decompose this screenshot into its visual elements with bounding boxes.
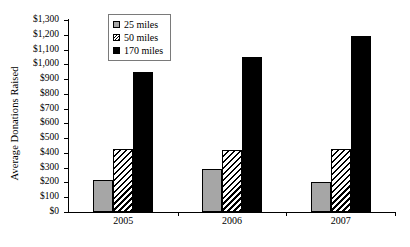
y-axis-tick-label: $600: [40, 119, 59, 129]
y-axis-tick-label: $900: [40, 74, 59, 84]
y-axis-tick-label: $100: [40, 192, 59, 202]
y-axis-title-text: Average Donations Raised: [9, 66, 20, 180]
y-axis-tick-label: $1,300: [33, 15, 59, 25]
y-axis-tick-mark: [64, 138, 68, 139]
legend-swatch-icon: [113, 47, 120, 54]
x-axis-tick-mark: [286, 212, 287, 216]
x-axis-tick-label: 2007: [311, 215, 371, 226]
legend-swatch-icon: [113, 34, 120, 41]
y-axis-tick-mark: [64, 153, 68, 154]
y-axis-tick-label: $0: [50, 207, 60, 217]
legend-swatch-icon: [113, 21, 120, 28]
x-axis-tick-mark: [395, 212, 396, 216]
y-axis-title: Average Donations Raised: [6, 0, 22, 247]
y-axis-tick-label: $1,200: [33, 30, 59, 40]
bar-group: [178, 20, 287, 212]
bar-group-bars: [178, 20, 287, 212]
legend-item-label: 50 miles: [124, 33, 158, 43]
bar: [351, 36, 371, 212]
bar-group: [286, 20, 395, 212]
legend-item-label: 170 miles: [124, 46, 163, 56]
y-axis-tick-mark: [64, 182, 68, 183]
bar: [222, 150, 242, 212]
legend-item-label: 25 miles: [124, 20, 158, 30]
x-axis-line: [68, 212, 395, 213]
bar-group-bars: [286, 20, 395, 212]
y-axis-tick-mark: [64, 197, 68, 198]
chart-legend: 25 miles50 miles170 miles: [108, 14, 171, 61]
y-axis-tick-label: $700: [40, 104, 59, 114]
y-axis-tick-label: $1,000: [33, 60, 59, 70]
y-axis-tick-label: $200: [40, 178, 59, 188]
y-axis-tick-label: $500: [40, 133, 59, 143]
y-axis-tick-mark: [64, 79, 68, 80]
bar: [133, 72, 153, 212]
bar: [202, 169, 222, 212]
y-axis-tick-mark: [64, 20, 68, 21]
y-axis-tick-mark: [64, 35, 68, 36]
bar: [242, 57, 262, 212]
bar: [113, 149, 133, 213]
y-axis-tick-labels: $0$100$200$300$400$500$600$700$800$900$1…: [22, 0, 64, 247]
y-axis-tick-label: $300: [40, 163, 59, 173]
y-axis-tick-label: $1,100: [33, 45, 59, 55]
bar-chart: Average Donations Raised $0$100$200$300$…: [0, 0, 410, 247]
y-axis-tick-mark: [64, 64, 68, 65]
y-axis-tick-mark: [64, 123, 68, 124]
y-axis-tick-label: $800: [40, 89, 59, 99]
y-axis-tick-mark: [64, 168, 68, 169]
x-axis-tick-label: 2005: [93, 215, 153, 226]
bar: [331, 149, 351, 213]
legend-item: 50 miles: [113, 31, 163, 44]
y-axis-tick-mark: [64, 94, 68, 95]
bar: [311, 182, 331, 212]
y-axis-tick-mark: [64, 50, 68, 51]
y-axis-tick-label: $400: [40, 148, 59, 158]
x-axis-tick-mark: [178, 212, 179, 216]
legend-item: 170 miles: [113, 44, 163, 57]
bar: [93, 180, 113, 212]
y-axis-tick-mark: [64, 109, 68, 110]
y-axis-tick-mark: [64, 212, 68, 213]
legend-item: 25 miles: [113, 18, 163, 31]
x-axis-tick-label: 2006: [202, 215, 262, 226]
